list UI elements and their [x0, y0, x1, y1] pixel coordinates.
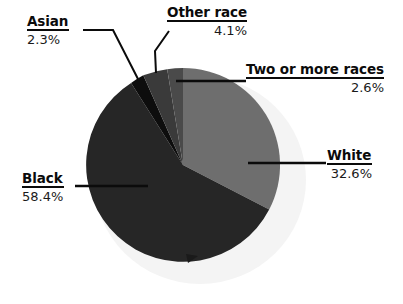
leader-line-asian [83, 30, 138, 79]
slice-label-white-underline [327, 163, 372, 165]
slice-label-asian-underline [27, 29, 69, 31]
slice-label-white-name: White [327, 148, 372, 163]
pie-slices [86, 68, 280, 262]
slice-label-two-or-more-races-underline [246, 77, 384, 79]
slice-label-white: White 32.6% [327, 148, 372, 181]
slice-label-other-race-name: Other race [167, 5, 247, 20]
slice-label-asian-name: Asian [27, 14, 69, 29]
slice-label-other-race-underline [167, 20, 247, 22]
slice-label-black-underline [22, 186, 64, 188]
slice-label-asian-value: 2.3% [27, 32, 69, 47]
slice-label-two-or-more-races-value: 2.6% [246, 80, 384, 95]
slice-label-white-value: 32.6% [327, 166, 372, 181]
slice-label-two-or-more-races: Two or more races 2.6% [246, 62, 384, 95]
pie-chart: Asian 2.3% Other race 4.1% Two or more r… [0, 0, 403, 304]
slice-label-other-race-value: 4.1% [167, 23, 247, 38]
slice-label-asian: Asian 2.3% [27, 14, 69, 47]
slice-label-two-or-more-races-name: Two or more races [246, 62, 384, 77]
slice-label-black-name: Black [22, 171, 64, 186]
slice-label-black: Black 58.4% [22, 171, 64, 204]
slice-label-other-race: Other race 4.1% [167, 5, 247, 38]
slice-label-black-value: 58.4% [22, 189, 64, 204]
